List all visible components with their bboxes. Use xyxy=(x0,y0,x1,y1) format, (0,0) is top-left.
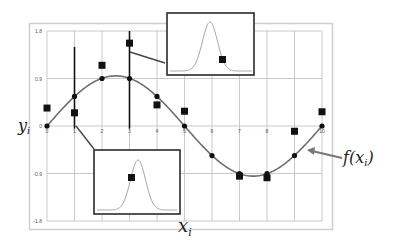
y-axis-label: yi xyxy=(17,116,30,136)
observation-point xyxy=(291,128,298,135)
curve-point xyxy=(154,94,159,99)
curve-point xyxy=(319,123,324,128)
y-tick-label: 0 xyxy=(39,123,42,129)
observation-marker-inset-top xyxy=(219,56,226,63)
x-tick-label: 8 xyxy=(266,128,269,134)
curve-point xyxy=(292,153,297,158)
inset-connector-bottom xyxy=(76,126,94,149)
observation-point xyxy=(181,108,188,115)
inset-top xyxy=(167,13,254,75)
curve-point xyxy=(209,153,214,158)
observation-point xyxy=(236,173,243,180)
y-tick-label: -1.8 xyxy=(33,218,42,224)
x-tick-label: 2 xyxy=(101,128,104,134)
inset-connector-top xyxy=(130,52,165,63)
x-tick-label: 6 xyxy=(211,128,214,134)
observation-point xyxy=(71,109,78,116)
curve-label-arrow xyxy=(312,151,342,158)
observation-point xyxy=(154,101,161,108)
observation-point xyxy=(44,105,51,112)
curve-point xyxy=(72,94,77,99)
observation-point xyxy=(264,174,271,181)
figure: 0123456789101.80.90-0.9-1.8 yi xi f(xi) xyxy=(0,0,397,249)
observation-point xyxy=(126,40,133,47)
arrow-head-icon xyxy=(307,147,315,155)
x-axis-label: xi xyxy=(178,215,192,239)
observation-point xyxy=(99,62,106,69)
inset-bottom xyxy=(94,150,180,214)
x-tick-label: 4 xyxy=(156,128,159,134)
x-tick-label: 0 xyxy=(46,128,49,134)
curve-point xyxy=(182,123,187,128)
curve-point xyxy=(99,76,104,81)
x-tick-label: 1 xyxy=(73,128,76,134)
x-tick-label: 3 xyxy=(128,128,131,134)
curve-point xyxy=(127,76,132,81)
observation-point xyxy=(319,108,326,115)
observation-marker-inset-bottom xyxy=(128,174,135,181)
y-tick-label: 1.8 xyxy=(35,28,42,34)
y-tick-label: -0.9 xyxy=(33,171,42,177)
curve-point xyxy=(44,123,49,128)
y-tick-label: 0.9 xyxy=(35,76,42,82)
curve-label: f(xi) xyxy=(342,148,374,168)
x-tick-label: 7 xyxy=(238,128,241,134)
x-tick-label: 5 xyxy=(183,128,186,134)
